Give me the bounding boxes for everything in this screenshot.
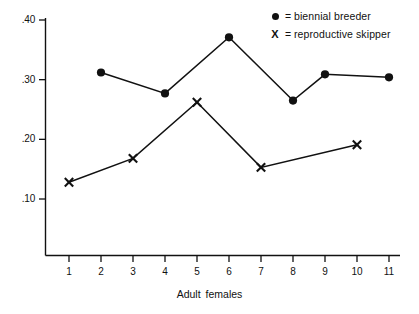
x-axis-tick-label: 4 — [155, 266, 175, 277]
x-axis-ticks — [69, 256, 389, 263]
data-point-x-marker — [193, 98, 201, 106]
x-axis-tick-label: 6 — [219, 266, 239, 277]
chart-figure: .10.20.30.40 1234567891011 Adultfemales … — [0, 0, 419, 314]
legend-item-reproductive-skipper: X = reproductive skipper — [268, 25, 418, 43]
legend-equals-sign: = — [282, 10, 294, 22]
y-axis-tick-label: .30 — [9, 74, 35, 85]
x-marker-icon: X — [268, 29, 282, 40]
series-lines — [69, 37, 389, 182]
y-axis-tick-label: .20 — [9, 133, 35, 144]
x-axis-tick-label: 8 — [283, 266, 303, 277]
y-axis-ticks — [39, 20, 46, 199]
x-axis-tick-label: 10 — [347, 266, 367, 277]
x-axis-tick-label: 9 — [315, 266, 335, 277]
x-axis-tick-label: 11 — [379, 266, 399, 277]
series-line-reproductive-skipper — [69, 102, 357, 182]
x-axis-title-part1: Adult — [177, 288, 201, 300]
data-point-filled-circle — [161, 89, 169, 97]
data-point-filled-circle — [289, 97, 297, 105]
data-point-filled-circle — [385, 73, 393, 81]
x-axis-title-part2: females — [206, 288, 243, 300]
x-axis-tick-label: 5 — [187, 266, 207, 277]
chart-legend: = biennial breeder X = reproductive skip… — [268, 7, 418, 43]
x-axis-title: Adultfemales — [0, 288, 419, 300]
y-axis-tick-label: .40 — [9, 14, 35, 25]
y-axis-tick-label: .10 — [9, 193, 35, 204]
filled-circle-marker-icon — [268, 13, 282, 20]
data-point-filled-circle — [97, 68, 105, 76]
legend-item-biennial-breeder: = biennial breeder — [268, 7, 418, 25]
x-axis-tick-label: 2 — [91, 266, 111, 277]
legend-label-biennial-breeder: biennial breeder — [294, 10, 371, 22]
data-point-x-marker — [65, 178, 73, 186]
series-line-biennial-breeder — [101, 37, 389, 100]
data-point-filled-circle — [225, 33, 233, 41]
x-axis-tick-label: 7 — [251, 266, 271, 277]
x-axis-tick-label: 3 — [123, 266, 143, 277]
legend-equals-sign: = — [282, 28, 294, 40]
data-point-x-marker — [129, 154, 137, 162]
data-point-filled-circle — [321, 70, 329, 78]
series-markers — [65, 33, 393, 186]
legend-label-reproductive-skipper: reproductive skipper — [294, 28, 391, 40]
x-axis-tick-label: 1 — [59, 266, 79, 277]
